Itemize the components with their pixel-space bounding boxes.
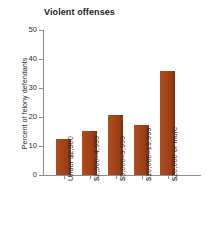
x-axis-tick (64, 176, 65, 179)
x-axis-tick (116, 176, 117, 179)
x-axis-tick (142, 176, 143, 179)
y-axis-line (43, 30, 44, 176)
y-axis-tick-label: 20 (11, 113, 37, 121)
y-axis-tick (39, 88, 44, 89)
y-axis-tick-label: 0 (11, 171, 37, 179)
plot-area: 01020304050 Under $2,500$2,500–4,999$5,0… (0, 0, 207, 249)
violent-offenses-bar-chart: Violent offenses Percent of felony defen… (0, 0, 207, 249)
x-axis-tick-label: Under $2,500 (67, 136, 74, 181)
x-axis-tick (168, 176, 169, 179)
y-axis-tick-label: 10 (11, 142, 37, 150)
x-axis-tick-label: $10,000–19,999 (145, 128, 152, 181)
y-axis-tick-label: 40 (11, 55, 37, 63)
y-axis-tick (39, 117, 44, 118)
x-axis-tick-label: $2,500–4,999 (93, 136, 100, 181)
x-axis-tick-label: $5,000–9,999 (119, 136, 126, 181)
y-axis-tick-label: 50 (11, 26, 37, 34)
y-axis-tick-label: 30 (11, 84, 37, 92)
y-axis-tick (39, 30, 44, 31)
y-axis-tick (39, 175, 44, 176)
x-axis-tick (90, 176, 91, 179)
x-axis-tick-label: $20,000 or more (171, 127, 178, 181)
y-axis-tick (39, 59, 44, 60)
y-axis-tick (39, 146, 44, 147)
